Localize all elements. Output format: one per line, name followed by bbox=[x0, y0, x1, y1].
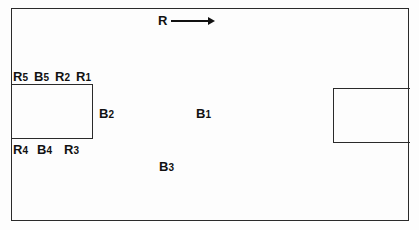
label-b5: B5 bbox=[34, 70, 49, 83]
diagram-canvas: R R5 B5 R2 R1 R4 B4 R3 B2 B1 B3 bbox=[0, 0, 419, 230]
right-arrow-icon bbox=[171, 20, 213, 22]
right-goal-box bbox=[333, 88, 410, 143]
label-r4: R4 bbox=[13, 143, 28, 156]
label-r3: R3 bbox=[64, 143, 79, 156]
left-goal-box bbox=[11, 84, 93, 139]
label-r5: R5 bbox=[13, 70, 28, 83]
label-r2: R2 bbox=[55, 70, 70, 83]
direction-label: R bbox=[158, 14, 167, 27]
label-b3: B3 bbox=[159, 160, 174, 173]
label-b1: B1 bbox=[196, 107, 211, 120]
label-b4: B4 bbox=[37, 143, 52, 156]
label-r1: R1 bbox=[76, 70, 91, 83]
label-b2: B2 bbox=[99, 107, 114, 120]
